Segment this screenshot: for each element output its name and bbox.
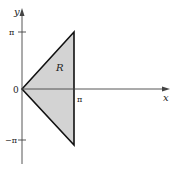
x-tick-label-pi: π — [77, 95, 82, 104]
x-axis-arrow-icon — [162, 87, 170, 92]
region-r — [22, 32, 74, 145]
region-diagram: y x 0 π −π π R — [0, 0, 177, 173]
y-axis-label: y — [13, 6, 20, 17]
y-axis-arrow-icon — [20, 8, 25, 16]
x-axis-label: x — [163, 92, 169, 103]
y-tick-label-pi: π — [9, 28, 14, 37]
origin-label: 0 — [13, 85, 19, 95]
region-label: R — [55, 62, 64, 73]
y-tick-label-neg-pi: −π — [5, 136, 17, 145]
